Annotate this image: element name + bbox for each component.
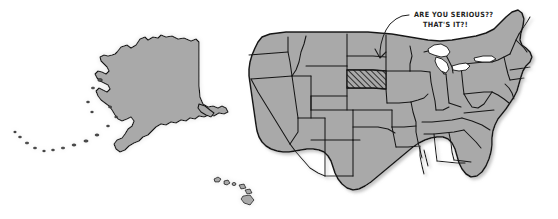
annotation-line-2: THAT'S IT?! [423, 20, 468, 29]
highlighted-state-nebraska[interactable] [347, 70, 386, 89]
us-map-svg: ARE YOU SERIOUS?? THAT'S IT?! [0, 0, 558, 219]
annotation-line-1: ARE YOU SERIOUS?? [414, 10, 493, 19]
us-map-figure: ARE YOU SERIOUS?? THAT'S IT?! [0, 0, 558, 219]
